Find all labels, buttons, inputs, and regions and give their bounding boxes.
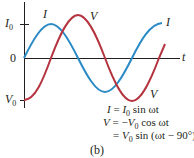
eq3-amp: V (122, 129, 129, 141)
curve-label-i-left: I (43, 8, 47, 20)
eq2-rest: cos ωt (138, 116, 168, 128)
panel-label: (b) (90, 144, 104, 156)
i0-label: I0 (5, 17, 13, 32)
eq2-lhs: V (103, 116, 110, 128)
v0-label: V0 (5, 93, 16, 108)
current-curve (24, 23, 162, 92)
curve-label-i-right: I (166, 16, 170, 28)
origin-label: 0 (10, 52, 16, 64)
eq3-rest: sin (ωt − 90°) (133, 129, 194, 141)
eq1-rest: sin ωt (130, 103, 159, 115)
curve-label-v-bottom: V (150, 88, 157, 100)
eq2-eq: = − (110, 116, 128, 128)
v0-sub: 0 (12, 99, 16, 108)
curve-label-v-top: V (90, 10, 97, 22)
equation-line-3: = V0 sin (ωt − 90°) (113, 129, 194, 146)
eq3-eq: = (113, 129, 122, 141)
t-axis-label: t (182, 51, 185, 63)
i0-sub: 0 (9, 23, 13, 32)
eq1-eq: = (111, 103, 123, 115)
